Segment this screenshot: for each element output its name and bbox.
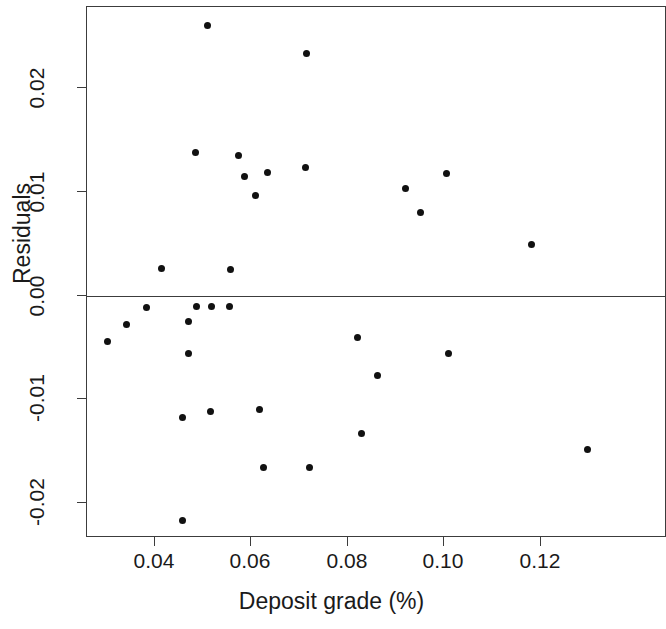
data-point	[306, 464, 313, 471]
data-point	[256, 406, 263, 413]
y-tick-label-1-text: 0.01	[25, 172, 49, 213]
y-tick-label-2-text: 0.00	[25, 276, 49, 317]
data-point	[179, 414, 186, 421]
data-point	[226, 303, 233, 310]
x-tick-mark-1	[250, 537, 251, 546]
data-point	[417, 209, 424, 216]
data-point	[185, 318, 192, 325]
x-tick-mark-2	[347, 537, 348, 546]
data-point	[374, 372, 381, 379]
y-tick-mark-4	[77, 502, 86, 503]
x-tick-label-4: 0.12	[485, 549, 595, 573]
data-point	[179, 517, 186, 524]
data-point	[235, 152, 242, 159]
plot-frame	[86, 6, 666, 537]
data-point	[204, 22, 211, 29]
x-tick-label-3: 0.10	[388, 549, 498, 573]
data-point	[445, 350, 452, 357]
data-point	[260, 464, 267, 471]
data-point	[158, 265, 165, 272]
data-point	[227, 266, 234, 273]
data-point	[193, 303, 200, 310]
x-tick-mark-4	[540, 537, 541, 546]
data-point	[528, 241, 535, 248]
y-tick-label-0-text: 0.02	[25, 68, 49, 109]
y-tick-mark-1	[77, 191, 86, 192]
x-tick-label-0: 0.04	[99, 549, 209, 573]
x-axis-title: Deposit grade (%)	[0, 588, 663, 615]
y-tick-label-3: -0.01	[0, 386, 74, 410]
data-point	[123, 321, 130, 328]
data-point	[208, 303, 215, 310]
y-tick-label-4: -0.02	[0, 490, 74, 514]
data-point	[443, 170, 450, 177]
y-tick-label-3-text: -0.01	[25, 374, 49, 422]
data-point	[241, 173, 248, 180]
data-point	[354, 334, 361, 341]
data-point	[584, 446, 591, 453]
x-tick-mark-0	[154, 537, 155, 546]
x-tick-label-1: 0.06	[195, 549, 305, 573]
data-point	[264, 169, 271, 176]
data-point	[185, 350, 192, 357]
data-point	[302, 164, 309, 171]
y-tick-label-0: 0.02	[0, 76, 74, 100]
data-point	[104, 338, 111, 345]
data-point	[402, 185, 409, 192]
y-tick-label-2: 0.00	[0, 284, 74, 308]
y-tick-mark-3	[77, 398, 86, 399]
x-tick-label-2: 0.08	[292, 549, 402, 573]
data-point	[207, 408, 214, 415]
data-point	[303, 50, 310, 57]
plot-area	[87, 7, 665, 536]
data-point	[252, 192, 259, 199]
y-tick-label-4-text: -0.02	[25, 478, 49, 526]
x-tick-mark-3	[443, 537, 444, 546]
data-point	[358, 430, 365, 437]
data-point	[143, 304, 150, 311]
y-tick-label-1: 0.01	[0, 180, 74, 204]
y-tick-mark-2	[77, 295, 86, 296]
data-point	[192, 149, 199, 156]
zero-reference-line	[87, 296, 665, 297]
y-tick-mark-0	[77, 87, 86, 88]
